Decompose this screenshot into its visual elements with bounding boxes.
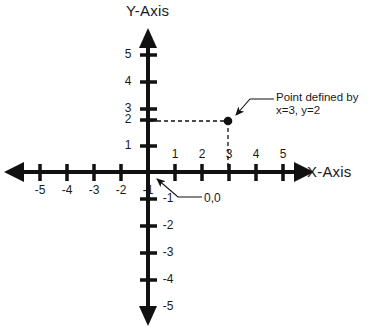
x-tick-label-neg1: -1 [138,183,158,197]
y-axis-bottom-arrowhead [139,306,157,326]
x-tick-label-5: 5 [273,147,293,161]
x-tick-label-neg2: -2 [111,183,131,197]
point-annotation-line1: Point defined by [276,91,358,104]
x-tick-label-2: 2 [192,147,212,161]
data-point-marker[interactable] [224,117,233,126]
x-tick-label-neg4: -4 [57,183,77,197]
y-tick-label-neg5: -5 [158,299,178,313]
x-tick-label-neg3: -3 [84,183,104,197]
y-tick-label-1: 1 [118,138,138,152]
x-axis-title: X-Axis [307,163,352,180]
y-tick-label-neg4: -4 [158,272,178,286]
x-tick-label-3: 3 [219,147,239,161]
y-axis-title: Y-Axis [126,2,169,19]
y-tick-label-neg3: -3 [158,245,178,259]
x-axis-left-arrowhead [4,162,24,182]
y-axis-top-arrowhead [139,28,157,48]
x-tick-label-neg5: -5 [30,183,50,197]
origin-annotation: 0,0 [204,192,221,205]
y-tick-label-5: 5 [118,47,138,61]
point-annotation: Point defined by x=3, y=2 [276,91,358,116]
y-tick-label-neg1: -1 [158,191,178,205]
y-tick-label-4: 4 [118,74,138,88]
point-annotation-leader [236,99,274,115]
x-tick-label-4: 4 [246,147,266,161]
coordinate-plane-figure: Y-Axis X-Axis -5 -4 -3 -2 -1 1 2 3 4 5 5… [0,0,371,336]
y-tick-label-2: 2 [118,112,138,126]
y-tick-label-neg2: -2 [158,218,178,232]
x-tick-label-1: 1 [165,147,185,161]
point-annotation-line2: x=3, y=2 [276,104,358,117]
